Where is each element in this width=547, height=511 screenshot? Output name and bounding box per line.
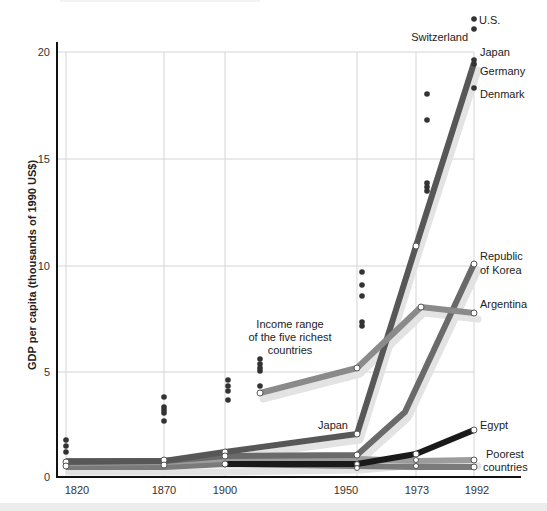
x-tick-1950: 1950 <box>334 484 358 496</box>
gdp-chart: 0 5 10 15 20 1820 1870 1900 1950 1973 19… <box>0 0 547 511</box>
label-korea-1: Republic <box>480 250 523 262</box>
label-korea-2: of Korea <box>480 264 522 276</box>
label-germany: Germany <box>480 65 526 77</box>
y-tick-10: 10 <box>38 260 50 272</box>
x-tick-1973: 1973 <box>405 484 429 496</box>
x-tick-1992: 1992 <box>465 484 489 496</box>
line-shadows <box>69 70 478 472</box>
y-tick-15: 15 <box>38 153 50 165</box>
series-republic-of-korea <box>66 264 474 461</box>
label-japan-top: Japan <box>480 46 510 58</box>
label-poorest-2: countries <box>483 461 528 473</box>
x-tick-1900: 1900 <box>213 484 237 496</box>
label-income-1: Income range <box>256 318 323 330</box>
bottom-strip <box>0 503 547 511</box>
label-income-2: of the five richest <box>248 331 331 343</box>
label-income-3: countries <box>268 344 313 356</box>
label-argentina: Argentina <box>480 298 528 310</box>
label-switzerland: Switzerland <box>411 31 468 43</box>
label-egypt: Egypt <box>480 419 508 431</box>
x-tick-1820: 1820 <box>65 484 89 496</box>
x-tick-1870: 1870 <box>152 484 176 496</box>
y-tick-5: 5 <box>44 366 50 378</box>
y-tick-0: 0 <box>44 471 50 483</box>
label-us: U.S. <box>479 14 500 26</box>
y-tick-20: 20 <box>38 46 50 58</box>
label-japan-mid: Japan <box>318 419 348 431</box>
line-markers <box>63 243 477 471</box>
label-poorest-1: Poorest <box>486 448 524 460</box>
y-axis-label: GDP per capita (thousands of 1990 US$) <box>26 160 38 370</box>
label-denmark: Denmark <box>480 88 525 100</box>
